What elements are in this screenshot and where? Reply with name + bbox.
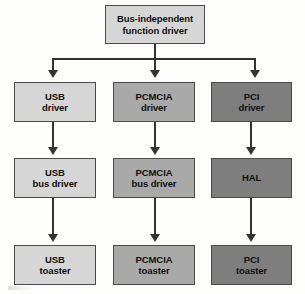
connector-usb-driver-to-usb-bus-driver [52, 122, 54, 148]
arrowhead-icon-to-pcmcia-driver [150, 70, 160, 78]
node-usb-bus-driver: USB bus driver [14, 158, 96, 198]
connector-pcmcia-bus-driver-to-pcmcia-toaster [154, 198, 156, 236]
arrowhead-icon-to-usb-toaster [48, 234, 58, 242]
node-pcmcia-bus-driver: PCMCIA bus driver [113, 158, 195, 198]
connector-pci-driver-to-hal [250, 122, 252, 148]
arrowhead-icon-to-pcmcia-toaster [150, 234, 160, 242]
node-pcmcia-toaster: PCMCIA toaster [113, 245, 195, 285]
node-bus-independent-function-driver: Bus-independent function driver [105, 5, 205, 44]
connector-bus-leg-pci [254, 58, 256, 71]
node-hal: HAL [211, 158, 292, 198]
node-usb-toaster: USB toaster [14, 245, 96, 285]
arrowhead-icon-to-usb-bus-driver [48, 147, 58, 155]
arrowhead-icon-to-pcmcia-bus-driver [150, 147, 160, 155]
node-usb-driver: USB driver [14, 82, 96, 122]
scan-artifact [8, 286, 34, 290]
connector-bus-leg-pcmcia [154, 58, 156, 71]
arrowhead-icon-to-pci-toaster [246, 234, 256, 242]
connector-hal-to-pci-toaster [250, 198, 252, 236]
node-pci-driver: PCI driver [211, 82, 292, 122]
arrowhead-icon-to-usb-driver [48, 70, 58, 78]
connector-pcmcia-driver-to-pcmcia-bus-driver [154, 122, 156, 148]
connector-usb-bus-driver-to-usb-toaster [52, 198, 54, 236]
diagram-canvas: Bus-independent function driver USB driv… [0, 0, 305, 294]
arrowhead-icon-to-pci-driver [250, 70, 260, 78]
connector-bus-leg-usb [52, 58, 54, 71]
node-pcmcia-driver: PCMCIA driver [113, 82, 195, 122]
node-pci-toaster: PCI toaster [211, 245, 292, 285]
arrowhead-icon-to-hal [246, 147, 256, 155]
